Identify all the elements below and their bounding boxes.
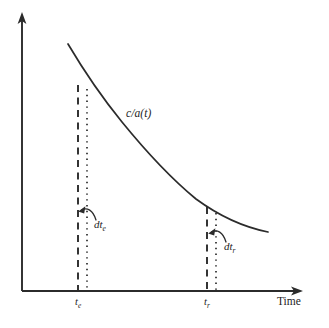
dt-reception-label: dtr bbox=[224, 241, 236, 255]
time-axis bbox=[22, 287, 303, 296]
dt-emission-guides bbox=[78, 85, 87, 291]
tick-label-t-emission-sub: e bbox=[78, 301, 81, 310]
vertical-axis bbox=[18, 12, 27, 291]
figure-canvas: c/a(t) dte dtr te tr Time bbox=[0, 0, 329, 328]
dt-emission-label-main: dt bbox=[94, 218, 103, 230]
tick-label-t-reception-sub: r bbox=[207, 301, 210, 310]
diagram-svg bbox=[0, 0, 329, 328]
tick-label-t-emission: te bbox=[75, 297, 81, 310]
dt-reception-arrowhead bbox=[208, 228, 215, 235]
dt-emission-label: dte bbox=[94, 219, 106, 233]
dt-emission-label-sub: e bbox=[103, 224, 106, 233]
curve-label: c/a(t) bbox=[126, 108, 152, 120]
tick-label-t-reception: tr bbox=[204, 297, 210, 310]
dt-reception-label-sub: r bbox=[233, 246, 236, 255]
dt-reception-guides bbox=[207, 207, 216, 291]
scale-factor-curve bbox=[68, 44, 268, 232]
dt-emission-arrowhead bbox=[78, 206, 85, 213]
time-axis-label: Time bbox=[277, 296, 301, 308]
dt-reception-label-main: dt bbox=[224, 240, 233, 252]
